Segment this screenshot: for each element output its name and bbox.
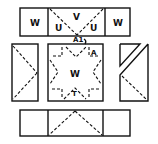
label-center-bottom: T — [72, 90, 77, 98]
label-top-center-left: U — [55, 23, 62, 33]
top-strip: W V U U W — [20, 8, 130, 36]
bottom-strip — [20, 110, 130, 136]
label-top-center-right: U — [90, 23, 97, 33]
label-junction: A1 — [73, 36, 83, 44]
left-panel — [12, 44, 38, 101]
right-panel — [120, 44, 148, 101]
label-top-center: V — [73, 12, 80, 22]
label-top-right: W — [113, 18, 123, 28]
center-panel: W A T — [48, 44, 103, 101]
label-center-corner: A — [91, 49, 97, 57]
junction-arrow — [84, 39, 86, 44]
folding-diagram: W V U U W A1 W A T — [0, 0, 158, 144]
label-top-left: W — [30, 18, 40, 28]
label-center: W — [70, 69, 80, 79]
